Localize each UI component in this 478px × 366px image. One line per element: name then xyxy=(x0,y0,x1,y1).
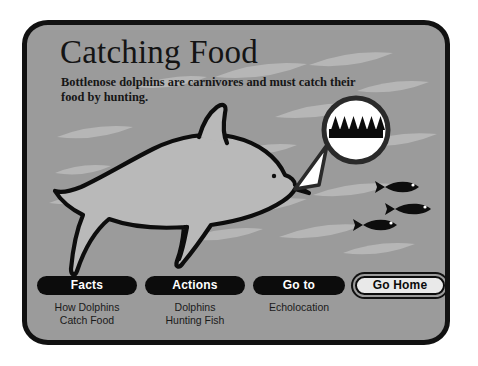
nav-cell-actions: Actions Dolphins Hunting Fish xyxy=(145,276,245,326)
fish-2 xyxy=(385,203,431,215)
dolphin-body xyxy=(55,135,309,275)
nav-cell-goto: Go to Echolocation xyxy=(253,276,345,314)
go-home-button[interactable]: Go Home xyxy=(355,276,445,295)
magnifier-cone xyxy=(295,145,327,189)
facts-caption: How Dolphins Catch Food xyxy=(37,301,137,326)
fish-3 xyxy=(353,219,397,231)
dolphin-figure xyxy=(55,105,309,275)
slide-screen: Catching Food Bottlenose dolphins are ca… xyxy=(0,0,478,366)
facts-button[interactable]: Facts xyxy=(37,276,137,295)
fish-school xyxy=(353,181,431,231)
actions-caption: Dolphins Hunting Fish xyxy=(145,301,245,326)
magnified-teeth-circle xyxy=(324,98,388,162)
teeth-group xyxy=(329,116,385,138)
dolphin-dorsal-fin xyxy=(199,105,227,143)
echolocation-caption: Echolocation xyxy=(253,301,345,314)
dolphin-eye xyxy=(272,174,276,178)
nav-cell-facts: Facts How Dolphins Catch Food xyxy=(37,276,137,326)
actions-button[interactable]: Actions xyxy=(145,276,245,295)
dolphin-pectoral-fin xyxy=(179,227,187,259)
go-to-button[interactable]: Go to xyxy=(253,276,345,295)
page-subtitle: Bottlenose dolphins are carnivores and m… xyxy=(61,75,361,104)
page-title: Catching Food xyxy=(60,34,258,70)
fish-1 xyxy=(375,181,419,193)
navigation-bar: Facts How Dolphins Catch Food Actions Do… xyxy=(37,276,445,345)
nav-cell-go-home: Go Home xyxy=(355,276,445,295)
content-frame: Catching Food Bottlenose dolphins are ca… xyxy=(22,20,450,345)
